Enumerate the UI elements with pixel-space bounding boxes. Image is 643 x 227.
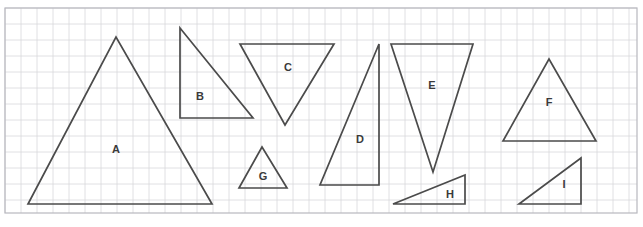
triangle-d-outline[interactable] [320, 44, 379, 185]
triangle-h[interactable]: H [393, 175, 465, 204]
triangles-worksheet: ABCDEFGHI [0, 0, 643, 227]
triangle-f-label: F [546, 96, 553, 108]
triangle-i-outline[interactable] [519, 158, 581, 204]
triangle-e-outline[interactable] [391, 44, 473, 172]
triangle-a[interactable]: A [28, 37, 212, 204]
triangle-g-label: G [259, 170, 268, 182]
triangle-d-label: D [356, 133, 364, 145]
triangle-b-label: B [196, 90, 204, 102]
triangle-g[interactable]: G [239, 147, 287, 188]
triangle-e[interactable]: E [391, 44, 473, 172]
triangle-e-label: E [428, 79, 435, 91]
triangle-b[interactable]: B [180, 28, 253, 118]
triangle-d[interactable]: D [320, 44, 379, 185]
triangle-c-outline[interactable] [240, 44, 334, 125]
triangle-b-outline[interactable] [180, 28, 253, 118]
triangle-c-label: C [284, 61, 292, 73]
triangle-h-outline[interactable] [393, 175, 465, 204]
triangle-i[interactable]: I [519, 158, 581, 204]
triangle-i-label: I [562, 178, 565, 190]
triangle-a-label: A [112, 143, 120, 155]
triangle-f[interactable]: F [503, 59, 596, 141]
triangle-c[interactable]: C [240, 44, 334, 125]
triangle-a-outline[interactable] [28, 37, 212, 204]
shapes-layer: ABCDEFGHI [0, 0, 643, 227]
triangle-h-label: H [446, 188, 454, 200]
